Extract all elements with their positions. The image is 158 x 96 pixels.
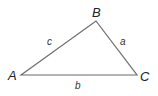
side-label-b: b [75, 80, 81, 91]
vertex-label-c: C [140, 69, 150, 84]
triangle-abc [21, 21, 137, 75]
vertex-label-b: B [92, 5, 101, 20]
side-label-c: c [47, 36, 52, 47]
triangle-diagram: A B C c a b [0, 0, 158, 96]
side-label-a: a [120, 36, 126, 47]
vertex-label-a: A [7, 68, 17, 83]
